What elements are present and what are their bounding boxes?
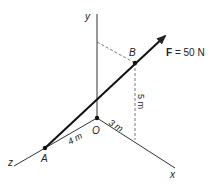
dim-x-label: 3 m [107,117,125,134]
x-axis-label: x [169,169,176,180]
point-o [95,116,99,120]
origin-label: O [92,125,100,136]
force-diagram: y z x O A B F = 50 N 4 m 3 m 5 m [0,0,215,188]
point-a [43,146,47,150]
z-axis-label: z [7,157,13,168]
point-b [133,61,137,65]
point-b-label: B [129,47,136,58]
force-value: = 50 N [172,47,205,58]
point-a-label: A [40,153,48,164]
force-label: F = 50 N [166,47,205,58]
dim-height-label: 5 m [136,94,146,109]
dim-z-label: 4 m [66,130,84,146]
force-vector [45,36,165,148]
z-axis [14,118,97,166]
y-axis-label: y [84,11,91,22]
